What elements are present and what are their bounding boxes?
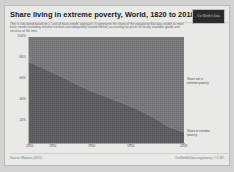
y-tick-label-60: 60% — [19, 77, 26, 81]
plot-area[interactable] — [29, 37, 184, 143]
stacked-area-plot[interactable] — [29, 37, 184, 143]
area-chart-svg — [29, 37, 184, 143]
screenshot-root: Share living in extreme poverty, World, … — [0, 0, 234, 172]
license-label[interactable]: OurWorldInData.org/poverty • CC BY — [175, 157, 224, 161]
x-tick-label-1820: 1820 — [26, 145, 33, 149]
footer-divider — [10, 153, 231, 154]
y-tick-label-100: 100% — [18, 35, 26, 39]
y-tick-label-80: 80% — [19, 56, 26, 60]
owid-logo-label: Our World in Data — [197, 15, 219, 18]
series-label-not-in-extreme-poverty: Share not in extreme poverty — [187, 78, 233, 85]
y-axis: 100% 80% 60% 40% 20% — [5, 31, 29, 143]
chart-card: Share living in extreme poverty, World, … — [4, 5, 230, 166]
chart-header: Share living in extreme poverty, World, … — [10, 10, 194, 19]
series-label-line2: extreme poverty — [187, 82, 233, 86]
x-tick-label-1850: 1850 — [49, 145, 56, 149]
series-label-line2: poverty — [187, 134, 233, 138]
owid-logo[interactable]: Our World in Data — [192, 9, 225, 24]
source-label: Source: Moatsos (2021) — [10, 157, 42, 161]
series-label-in-extreme-poverty: Share in extreme poverty — [187, 130, 233, 137]
x-tick-label-1950: 1950 — [127, 145, 134, 149]
page-title: Share living in extreme poverty, World, … — [10, 10, 194, 19]
y-tick-label-40: 40% — [19, 98, 26, 102]
y-tick-label-20: 20% — [19, 119, 26, 123]
chart-subtitle: This is calculated based on a 'cost of b… — [10, 23, 186, 35]
x-tick-label-2018: 2018 — [180, 145, 187, 149]
x-tick-label-1900: 1900 — [88, 145, 95, 149]
